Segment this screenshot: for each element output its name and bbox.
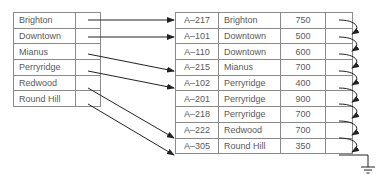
balance: 500 — [281, 28, 326, 44]
balance: 700 — [281, 107, 326, 123]
index-table: Brighton Downtown Mianus Perryridge Redw… — [13, 12, 101, 107]
account-number: A–215 — [176, 60, 219, 76]
branch-name: Perryridge — [219, 75, 281, 91]
file-record: A–217Brighton750 — [176, 13, 353, 29]
account-number: A–218 — [176, 107, 219, 123]
index-row: Perryridge — [14, 60, 101, 76]
next-pointer-cell — [326, 44, 353, 60]
index-pointer-cell — [76, 60, 101, 76]
next-pointer-cell — [326, 138, 353, 154]
index-row: Brighton — [14, 13, 101, 29]
branch-name: Downtown — [219, 44, 281, 60]
branch-name: Downtown — [219, 28, 281, 44]
next-pointer-cell — [326, 107, 353, 123]
branch-name: Round Hill — [219, 138, 281, 154]
branch-name: Redwood — [219, 122, 281, 138]
account-number: A–102 — [176, 75, 219, 91]
account-number: A–305 — [176, 138, 219, 154]
next-pointer-cell — [326, 28, 353, 44]
account-number: A–110 — [176, 44, 219, 60]
index-pointer-cell — [76, 91, 101, 107]
balance: 350 — [281, 138, 326, 154]
index-pointer-cell — [76, 44, 101, 60]
branch-name: Brighton — [219, 13, 281, 29]
index-key: Mianus — [14, 44, 76, 60]
next-pointer-cell — [326, 75, 353, 91]
index-key: Downtown — [14, 28, 76, 44]
index-row: Redwood — [14, 75, 101, 91]
file-record: A–201Perryridge900 — [176, 91, 353, 107]
next-pointer-cell — [326, 60, 353, 76]
index-row: Downtown — [14, 28, 101, 44]
file-record: A–215Mianus700 — [176, 60, 353, 76]
account-number: A–222 — [176, 122, 219, 138]
balance: 400 — [281, 75, 326, 91]
account-number: A–101 — [176, 28, 219, 44]
index-key: Round Hill — [14, 91, 76, 107]
arrow-roundhill — [88, 104, 174, 155]
account-number: A–217 — [176, 13, 219, 29]
index-row: Mianus — [14, 44, 101, 60]
index-key: Redwood — [14, 75, 76, 91]
index-pointer-cell — [76, 13, 101, 29]
file-record: A–110Downtown600 — [176, 44, 353, 60]
file-record: A–102Perryridge400 — [176, 75, 353, 91]
balance: 700 — [281, 122, 326, 138]
index-key: Brighton — [14, 13, 76, 29]
balance: 600 — [281, 44, 326, 60]
account-number: A–201 — [176, 91, 219, 107]
file-record: A–222Redwood700 — [176, 122, 353, 138]
index-key: Perryridge — [14, 60, 76, 76]
branch-name: Perryridge — [219, 91, 281, 107]
next-pointer-cell — [326, 91, 353, 107]
next-pointer-cell — [326, 13, 353, 29]
branch-name: Mianus — [219, 60, 281, 76]
index-pointer-cell — [76, 28, 101, 44]
next-pointer-cell — [326, 122, 353, 138]
index-pointer-cell — [76, 75, 101, 91]
index-row: Round Hill — [14, 91, 101, 107]
balance: 750 — [281, 13, 326, 29]
balance: 700 — [281, 60, 326, 76]
file-table: A–217Brighton750 A–101Downtown500 A–110D… — [175, 12, 353, 154]
ground-icon — [339, 155, 375, 173]
balance: 900 — [281, 91, 326, 107]
file-record: A–218Perryridge700 — [176, 107, 353, 123]
file-record: A–101Downtown500 — [176, 28, 353, 44]
branch-name: Perryridge — [219, 107, 281, 123]
file-record: A–305Round Hill350 — [176, 138, 353, 154]
